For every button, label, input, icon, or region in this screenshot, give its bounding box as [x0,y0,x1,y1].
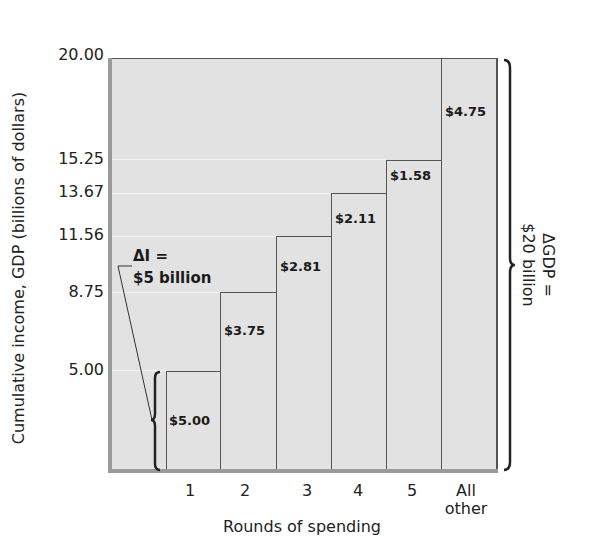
y-tick-20: 20.00 [58,47,104,63]
increment-label-2: $3.75 [224,323,265,338]
gridline-5-00 [112,370,166,371]
increment-label-5: $1.58 [390,168,431,183]
delta-gdp-annotation: ΔGDP = $20 billion [518,223,558,307]
delta-investment-line2: $5 billion [133,269,211,287]
delta-investment-annotation: ΔI = $5 billion [133,245,211,289]
x-tick-4: 4 [353,482,363,500]
increment-label-1: $5.00 [169,413,210,428]
x-tick-all-other: All other [445,482,488,518]
increment-label-3: $2.81 [280,259,321,274]
x-axis-line [108,469,498,473]
column-divider [496,58,497,471]
x-tick-all: All [456,481,476,500]
x-tick-1: 1 [185,482,195,500]
y-tick-15-25: 15.25 [58,151,104,167]
column-divider [220,371,221,471]
y-tick-8-75: 8.75 [68,284,104,300]
y-axis-line [108,58,112,473]
delta-investment-line1: ΔI = [133,247,168,265]
y-tick-5: 5.00 [68,362,104,378]
y-tick-13-67: 13.67 [58,184,104,200]
increment-label-6: $4.75 [445,104,486,119]
column-divider [441,160,442,471]
column-divider [386,193,387,471]
x-tick-other: other [445,499,488,518]
x-tick-2: 2 [240,482,250,500]
column-divider [331,236,332,471]
x-axis-label: Rounds of spending [223,517,381,536]
x-tick-3: 3 [302,482,312,500]
y-tick-11-56: 11.56 [58,227,104,243]
multiplier-chart: $5.00 $3.75 $2.81 $2.11 $1.58 $4.75 20.0… [0,0,589,537]
gridline-8-75 [112,292,220,293]
delta-gdp-line2: $20 billion [519,223,538,307]
column-divider [276,292,277,471]
increment-label-4: $2.11 [335,211,376,226]
gridline-11-56 [112,236,276,237]
gridline-13-67 [112,193,330,194]
y-axis-label: Cumulative income, GDP (billions of doll… [9,92,28,444]
x-tick-5: 5 [407,482,417,500]
delta-gdp-line1: ΔGDP = [539,233,558,297]
gridline-15-25 [112,159,385,160]
